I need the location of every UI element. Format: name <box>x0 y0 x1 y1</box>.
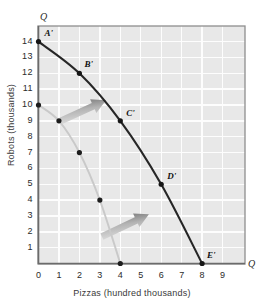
point-label-b-prime: B' <box>84 59 93 69</box>
chart-figure: Q Q Robots (thousands) Pizzas (hundred t… <box>0 0 268 308</box>
ppf-chart-canvas <box>0 0 268 308</box>
y-tick-12: 12 <box>15 67 33 77</box>
x-tick-0: 0 <box>32 270 46 280</box>
y-tick-13: 13 <box>15 51 33 61</box>
y-tick-5: 5 <box>15 178 33 188</box>
y-tick-11: 11 <box>15 83 33 93</box>
y-tick-8: 8 <box>15 131 33 141</box>
y-tick-3: 3 <box>15 210 33 220</box>
x-tick-5: 5 <box>134 270 148 280</box>
y-tick-7: 7 <box>15 147 33 157</box>
y-tick-10: 10 <box>15 99 33 109</box>
point-label-d-prime: D' <box>167 171 176 181</box>
plot-background <box>38 26 245 264</box>
x-tick-1: 1 <box>52 270 66 280</box>
y-tick-2: 2 <box>15 226 33 236</box>
x-tick-9: 9 <box>216 270 230 280</box>
y-tick-6: 6 <box>15 162 33 172</box>
point-label-e-prime: E' <box>207 250 216 260</box>
point-label-c-prime: C' <box>126 108 135 118</box>
y-tick-14: 14 <box>15 36 33 46</box>
y-tick-1: 1 <box>15 242 33 252</box>
x-axis-end-label: Q <box>248 258 255 269</box>
x-tick-4: 4 <box>113 270 127 280</box>
y-axis-end-label: Q <box>40 11 47 22</box>
x-tick-6: 6 <box>154 270 168 280</box>
point-label-a-prime: A' <box>45 28 54 38</box>
x-tick-3: 3 <box>93 270 107 280</box>
x-tick-8: 8 <box>195 270 209 280</box>
y-tick-4: 4 <box>15 194 33 204</box>
x-axis-title: Pizzas (hundred thousands) <box>38 288 226 298</box>
y-tick-9: 9 <box>15 115 33 125</box>
x-tick-2: 2 <box>72 270 86 280</box>
x-tick-7: 7 <box>175 270 189 280</box>
